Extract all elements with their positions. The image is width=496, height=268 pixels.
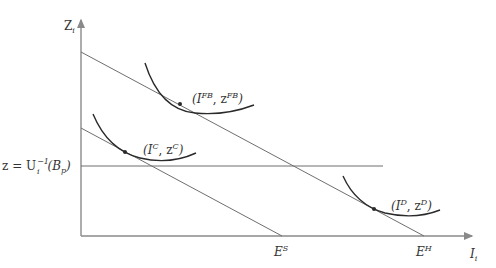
tangency-point-fb [178, 102, 182, 106]
tangency-point-c [123, 150, 127, 154]
tangency-point-d [372, 207, 376, 211]
x-axis-label: Ii [469, 247, 478, 263]
z-threshold-label: z = U−1i(Bp) [2, 157, 71, 176]
y-axis-label: Zi [64, 19, 75, 35]
indifference-curve-diagram: Zi Ii z = U−1i(Bp) ES EH (IFB, zFB) (IC,… [0, 0, 496, 268]
point-label-fb: (IFB, zFB) [192, 91, 243, 106]
indifference-curve-fb [145, 63, 254, 114]
point-label-d: (ID, zD) [391, 198, 432, 213]
tick-label-eh: EH [415, 244, 433, 259]
point-label-c: (IC, zC) [143, 142, 184, 157]
tick-label-es: ES [273, 244, 289, 259]
